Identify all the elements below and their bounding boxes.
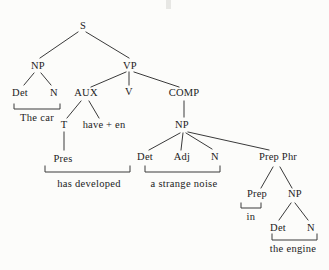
tree-labels-layer: SNPVPDetNAUXVCOMPThave + enNPPresDetAdjN… [0, 0, 329, 270]
node-v: V [125, 87, 133, 98]
node-n1: N [50, 88, 58, 99]
node-n2: N [211, 152, 219, 163]
node-n3: N [307, 223, 315, 234]
node-np3: NP [288, 189, 302, 200]
node-prep-phr: Prep Phr [259, 152, 297, 163]
node-np2: NP [175, 120, 189, 131]
syntax-tree-diagram: SNPVPDetNAUXVCOMPThave + enNPPresDetAdjN… [0, 0, 329, 270]
terminal-has-developed: has developed [57, 179, 121, 190]
node-s: S [80, 21, 86, 32]
node-np1: NP [31, 61, 45, 72]
node-t: T [61, 120, 68, 131]
terminal-the-car: The car [20, 113, 54, 124]
node-adj: Adj [174, 152, 190, 163]
terminal-in: in [247, 212, 256, 223]
node-vp: VP [123, 61, 137, 72]
node-have-en: have + en [83, 120, 126, 131]
node-det1: Det [12, 88, 28, 99]
node-det2: Det [137, 152, 153, 163]
terminal-the-engine: the engine [270, 244, 316, 255]
node-det3: Det [270, 223, 286, 234]
node-comp: COMP [169, 88, 200, 99]
node-pres: Pres [54, 154, 73, 165]
node-prep: Prep [247, 189, 267, 200]
terminal-a-strange-noise: a strange noise [151, 179, 218, 190]
node-aux: AUX [74, 88, 97, 99]
